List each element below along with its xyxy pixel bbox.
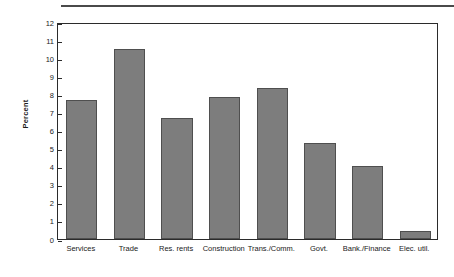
x-axis-label: Trade: [105, 243, 153, 254]
x-axis-label: Trans./Comm.: [248, 243, 296, 254]
x-axis-label: Res. rents: [152, 243, 200, 254]
bar: [352, 166, 383, 239]
x-axis-label: Elec. util.: [390, 243, 438, 254]
y-tick-label: 0: [50, 236, 54, 246]
bar: [66, 100, 97, 239]
y-tick-label: 6: [50, 127, 54, 137]
x-axis-labels: ServicesTradeRes. rentsConstructionTrans…: [57, 243, 438, 259]
x-axis-label: Services: [57, 243, 105, 254]
y-tick-label: 10: [46, 55, 54, 65]
y-tick-label: 4: [50, 163, 54, 173]
x-axis-label: Construction: [200, 243, 248, 254]
y-tick-label: 3: [50, 181, 54, 191]
bar: [209, 97, 240, 239]
y-tick-label: 1: [50, 217, 54, 227]
bar: [400, 231, 431, 239]
y-tick-label: 2: [50, 199, 54, 209]
y-tick-label: 5: [50, 145, 54, 155]
y-tick-label: 9: [50, 73, 54, 83]
plot-area: 0123456789101112: [57, 23, 438, 240]
bar-chart-figure: Percent 0123456789101112 ServicesTradeRe…: [0, 0, 454, 277]
bar: [161, 118, 192, 239]
x-axis-label: Bank./Finance: [343, 243, 391, 254]
bar: [257, 88, 288, 239]
bar: [304, 143, 335, 239]
bar: [114, 49, 145, 239]
bar-series: [58, 24, 437, 239]
header-divider-rule: [61, 5, 454, 7]
y-tick-mark: [58, 241, 62, 242]
y-tick-label: 8: [50, 91, 54, 101]
y-tick-label: 12: [46, 19, 54, 29]
x-axis-label: Govt.: [295, 243, 343, 254]
y-tick-label: 11: [46, 37, 54, 47]
y-tick-label: 7: [50, 109, 54, 119]
y-axis-title: Percent: [21, 107, 30, 129]
